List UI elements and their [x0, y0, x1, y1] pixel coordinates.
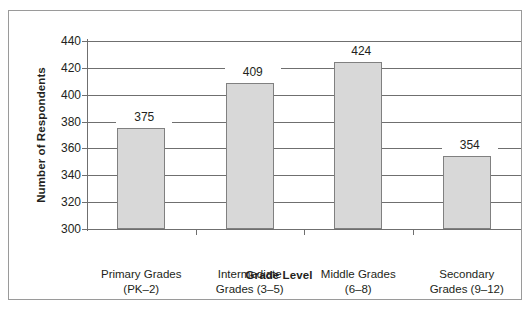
- x-axis-category-label-line: Grades (3–5): [196, 282, 305, 297]
- y-axis-tick: [82, 202, 87, 203]
- y-axis-tick-labels: 440420400380360340320300: [37, 41, 81, 229]
- bar: [334, 62, 382, 229]
- bar: [443, 156, 491, 229]
- gridline: [87, 95, 521, 96]
- plot-area: 375Primary Grades(PK–2)409IntermediateGr…: [87, 41, 521, 229]
- bar: [117, 128, 165, 229]
- x-axis-category-label-line: Grades (9–12): [413, 282, 522, 297]
- bar-value-label: 375: [116, 111, 172, 123]
- chart-frame: Number of Respondents 440420400380360340…: [8, 10, 522, 300]
- y-axis-tick-label: 340: [41, 169, 81, 181]
- y-axis-tick: [82, 175, 87, 176]
- y-axis-tick-label: 300: [41, 223, 81, 235]
- y-axis-tick-label: 320: [41, 196, 81, 208]
- y-axis-tick-label: 360: [41, 142, 81, 154]
- y-axis-tick: [82, 95, 87, 96]
- bar-chart-figure: Number of Respondents 440420400380360340…: [0, 0, 532, 315]
- y-axis-tick-label: 440: [41, 35, 81, 47]
- axis-baseline: [87, 229, 521, 230]
- y-axis-tick-label: 380: [41, 116, 81, 128]
- gridline: [87, 41, 521, 42]
- gridline: [87, 68, 521, 69]
- x-axis-title: Grade Level: [87, 269, 471, 281]
- bar-value-label: 424: [333, 45, 389, 57]
- y-axis-tick: [82, 68, 87, 69]
- y-axis-tick: [82, 41, 87, 42]
- y-axis-tick: [82, 148, 87, 149]
- x-axis-category-label-line: (6–8): [304, 282, 413, 297]
- bar: [226, 83, 274, 229]
- y-axis-tick-label: 400: [41, 89, 81, 101]
- x-axis-category-label-line: (PK–2): [87, 282, 196, 297]
- y-axis-tick: [82, 122, 87, 123]
- bar-value-label: 354: [442, 139, 498, 151]
- bar-value-label: 409: [225, 66, 281, 78]
- y-axis-tick-label: 420: [41, 62, 81, 74]
